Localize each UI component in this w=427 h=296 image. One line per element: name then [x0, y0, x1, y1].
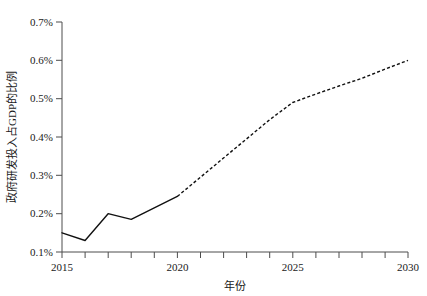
- y-tick-label-0.7: 0.7%: [30, 16, 53, 28]
- chart-figure: 政府研发投入占GDP的比例 0.7% 0.6% 0.5% 0.4% 0.3% 0…: [0, 0, 427, 296]
- x-tick-marks: [62, 252, 408, 258]
- line-chart-svg: 政府研发投入占GDP的比例 0.7% 0.6% 0.5% 0.4% 0.3% 0…: [0, 0, 427, 296]
- y-tick-label-0.6: 0.6%: [30, 54, 53, 66]
- series-forecast-line: [177, 60, 408, 196]
- y-tick-label-0.4: 0.4%: [30, 131, 53, 143]
- y-tick-label-0.5: 0.5%: [30, 92, 53, 104]
- y-tick-label-0.2: 0.2%: [30, 207, 53, 219]
- series-historical-line: [62, 196, 177, 240]
- y-tick-label-0.3: 0.3%: [30, 169, 53, 181]
- x-tick-label-2020: 2020: [166, 261, 189, 273]
- x-tick-label-2025: 2025: [282, 261, 305, 273]
- x-tick-label-2015: 2015: [51, 261, 74, 273]
- x-axis-title: 年份: [224, 279, 246, 292]
- x-tick-label-2030: 2030: [397, 261, 420, 273]
- y-axis-title: 政府研发投入占GDP的比例: [5, 71, 18, 203]
- y-tick-label-0.1: 0.1%: [30, 246, 53, 258]
